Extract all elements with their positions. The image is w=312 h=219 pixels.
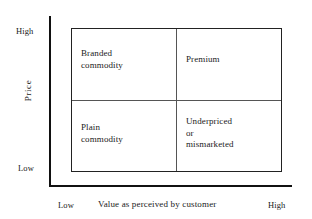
- quadrant-bottom-right: Underpriced or mismarketed: [177, 101, 281, 171]
- quadrant-top-right-line1: Premium: [186, 54, 281, 66]
- quadrant-top-left-line1: Branded: [81, 48, 176, 60]
- x-axis-high-label: High: [268, 200, 285, 210]
- y-axis-high-label: High: [16, 26, 33, 36]
- quadrant-bottom-left-line1: Plain: [81, 122, 176, 134]
- quadrant-bottom-right-line2: or: [186, 128, 281, 140]
- y-axis-title: Price: [23, 61, 34, 121]
- quadrant-bottom-right-line3: mismarketed: [186, 139, 281, 151]
- quadrant-top-left-line2: commodity: [81, 60, 176, 72]
- y-axis-low-label: Low: [18, 163, 34, 173]
- matrix-box: Branded commodity Premium Plain commodit…: [71, 28, 282, 172]
- quadrant-bottom-right-line1: Underpriced: [186, 116, 281, 128]
- quadrant-top-left: Branded commodity: [72, 29, 176, 100]
- quadrant-top-right: Premium: [177, 29, 281, 100]
- price-value-matrix-diagram: High Low Price Low High Value as perceiv…: [0, 0, 312, 219]
- x-axis-title: Value as perceived by customer: [98, 199, 216, 210]
- quadrant-bottom-left: Plain commodity: [72, 101, 176, 171]
- x-axis-line: [49, 185, 292, 187]
- x-axis-low-label: Low: [58, 200, 74, 210]
- quadrant-bottom-left-line2: commodity: [81, 134, 176, 146]
- y-axis-line: [49, 16, 51, 187]
